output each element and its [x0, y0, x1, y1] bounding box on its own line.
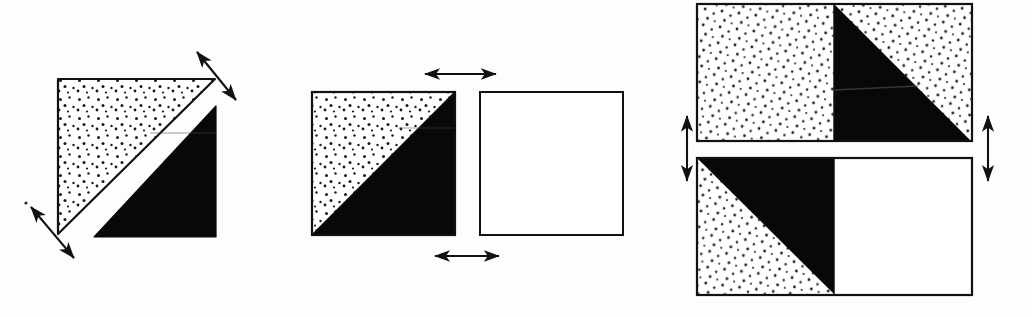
empty-square	[480, 92, 623, 235]
diagram-svg	[0, 0, 1032, 317]
figure-canvas: Triangle rearrangement diagram Three han…	[0, 0, 1032, 317]
scan-speck	[24, 201, 27, 204]
